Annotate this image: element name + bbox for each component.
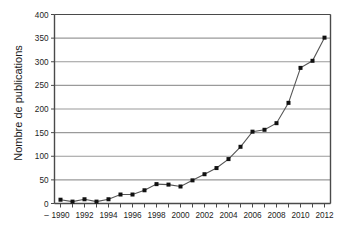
y-tick-label: 350: [35, 34, 49, 43]
data-point-marker: [83, 197, 87, 201]
x-tick-label: 2012: [315, 211, 334, 220]
data-point-marker: [119, 193, 123, 197]
data-point-marker: [311, 59, 315, 63]
chart-plot-area: 050100150200250300350400 199019921994199…: [0, 0, 345, 228]
y-tick-label: 200: [35, 105, 49, 114]
data-point-marker: [251, 130, 255, 134]
data-point-marker: [275, 121, 279, 125]
y-tick-label: 150: [35, 129, 49, 138]
data-point-marker: [299, 66, 303, 70]
data-point-marker: [227, 157, 231, 161]
x-tick-label: 1990: [51, 211, 70, 220]
data-point-marker: [71, 200, 75, 204]
data-point-marker: [203, 172, 207, 176]
data-point-marker: [323, 36, 327, 40]
y-tick-label: 400: [35, 11, 49, 20]
y-tick-label: 50: [39, 176, 49, 185]
data-point-marker: [179, 184, 183, 188]
y-tick-label: 0: [44, 200, 49, 209]
x-tick-label: 2004: [219, 211, 238, 220]
x-tick-label: 2000: [171, 211, 190, 220]
y-tick-label: 300: [35, 58, 49, 67]
y-axis-title: Nombre de publications: [12, 8, 24, 198]
data-point-marker: [143, 188, 147, 192]
x-axis-leading-dash: –: [44, 211, 49, 220]
data-point-marker: [131, 193, 135, 197]
x-tick-label: 1998: [147, 211, 166, 220]
chart-container: Nombre de publications 05010015020025030…: [0, 0, 345, 228]
data-point-marker: [191, 178, 195, 182]
x-tick-label: 1992: [75, 211, 94, 220]
x-tick-label: 2010: [291, 211, 310, 220]
data-point-marker: [155, 182, 159, 186]
data-point-marker: [59, 198, 63, 202]
data-point-marker: [263, 128, 267, 132]
gridlines: [55, 15, 331, 204]
x-axis-ticks: 1990199219941996199820002002200420062008…: [44, 204, 334, 220]
data-markers: [59, 36, 327, 204]
y-axis-ticks: 050100150200250300350400: [35, 11, 55, 209]
x-tick-label: 2008: [267, 211, 286, 220]
x-tick-label: 1996: [123, 211, 142, 220]
x-tick-label: 1994: [99, 211, 118, 220]
data-point-marker: [287, 101, 291, 105]
data-point-marker: [215, 166, 219, 170]
y-tick-label: 100: [35, 152, 49, 161]
data-point-marker: [239, 145, 243, 149]
x-tick-label: 2002: [195, 211, 214, 220]
data-point-marker: [107, 197, 111, 201]
y-tick-label: 250: [35, 81, 49, 90]
data-point-marker: [167, 183, 171, 187]
x-tick-label: 2006: [243, 211, 262, 220]
data-point-marker: [95, 200, 99, 204]
